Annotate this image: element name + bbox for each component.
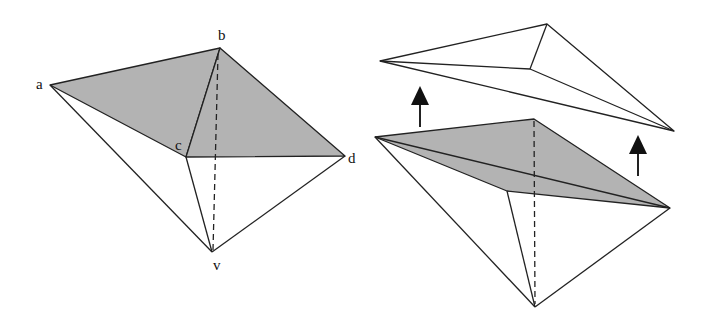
bottom-piece (375, 119, 670, 307)
label-a: a (36, 76, 43, 92)
label-v: v (213, 257, 221, 273)
bottom-edge-right-apex (535, 208, 670, 307)
lift-arrow-left (411, 86, 429, 127)
arrow-up-icon (629, 135, 647, 154)
pyramid-diagram: a b c d v (0, 0, 716, 319)
lift-arrow-right (629, 135, 647, 176)
left-figure: a b c d v (36, 27, 356, 273)
label-b: b (218, 27, 226, 43)
bottom-edge-inner-apex (507, 191, 535, 307)
right-figure (375, 24, 674, 307)
label-d: d (348, 150, 356, 166)
top-piece (380, 24, 674, 131)
edge-d-v (212, 156, 345, 252)
bottom-shaded-region (375, 119, 670, 208)
label-c: c (175, 137, 182, 153)
top-piece-outline (380, 24, 674, 131)
arrow-up-icon (411, 86, 429, 105)
